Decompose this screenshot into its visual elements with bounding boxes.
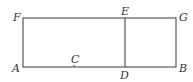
label-g: G [179, 11, 188, 24]
label-e: E [120, 5, 129, 18]
rectangle-abgf [23, 18, 176, 67]
label-c: C [71, 53, 80, 66]
label-f: F [12, 11, 21, 24]
label-b: B [178, 62, 187, 75]
label-a: A [11, 62, 20, 75]
label-d: D [119, 69, 129, 82]
geometry-diagram: F E G A C D B [0, 0, 193, 82]
